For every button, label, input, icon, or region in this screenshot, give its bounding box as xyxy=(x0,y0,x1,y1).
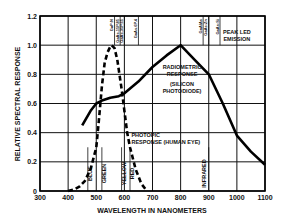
x-tick-label: 700 xyxy=(147,194,159,201)
y-tick-label: 0 xyxy=(33,188,37,195)
y-tick-label: 0.2 xyxy=(27,158,37,165)
color-band-label: YELLOW xyxy=(121,161,127,185)
x-tick-label: 1000 xyxy=(229,194,245,201)
annotation-label: RESPONSE (HUMAN EYE) xyxy=(131,139,200,145)
led-marker-label: GaAs.35P.65 xyxy=(119,18,124,42)
y-axis-title: RELATIVE SPECTRAL RESPONSE xyxy=(14,46,21,161)
color-band-label: RED xyxy=(129,168,135,180)
led-marker-label: GaP:N xyxy=(109,19,114,31)
led-marker-label: GaAs:Si xyxy=(215,19,220,35)
annotation-label: RADIOMETRIC xyxy=(163,64,202,70)
annotation-label: PHOTOPIC xyxy=(131,132,160,138)
x-tick-label: 900 xyxy=(203,194,215,201)
annotation-label: PEAK LED xyxy=(223,29,251,35)
x-tick-label: 500 xyxy=(90,194,102,201)
photopic-response-line xyxy=(68,45,147,191)
y-tick-label: 1.2 xyxy=(27,13,37,20)
y-tick-label: 0.6 xyxy=(27,100,37,107)
color-band-label: GREEN xyxy=(101,164,107,184)
led-marker-label: GaAlAs xyxy=(198,18,203,33)
annotation-label: PHOTODIODE) xyxy=(163,88,202,94)
x-tick-label: 400 xyxy=(62,194,74,201)
spectral-response-chart: BLUEGREENYELLOWREDINFRAREDGaP:NGaAs.15P.… xyxy=(0,0,284,224)
grid xyxy=(40,16,265,191)
annotation-label: RESPONSE xyxy=(167,71,198,77)
x-tick-label: 1100 xyxy=(257,194,272,201)
annotation-label: EMISSION xyxy=(223,36,250,42)
annotation-label: (SILICON xyxy=(170,81,194,87)
color-band-label: INFRARED xyxy=(201,159,207,187)
x-tick-label: 600 xyxy=(119,194,131,201)
x-axis-title: WAVELENGTH IN NANOMETERS xyxy=(97,207,207,214)
y-tick-label: 0.4 xyxy=(27,129,37,136)
y-tick-label: 0.8 xyxy=(27,71,37,78)
led-marker-label: GaAs:Zn xyxy=(203,18,208,35)
x-tick-label: 300 xyxy=(34,194,46,201)
led-marker-label: GaAs.6P.4 xyxy=(133,18,138,38)
x-tick-label: 800 xyxy=(175,194,187,201)
y-tick-label: 1.0 xyxy=(27,42,37,49)
